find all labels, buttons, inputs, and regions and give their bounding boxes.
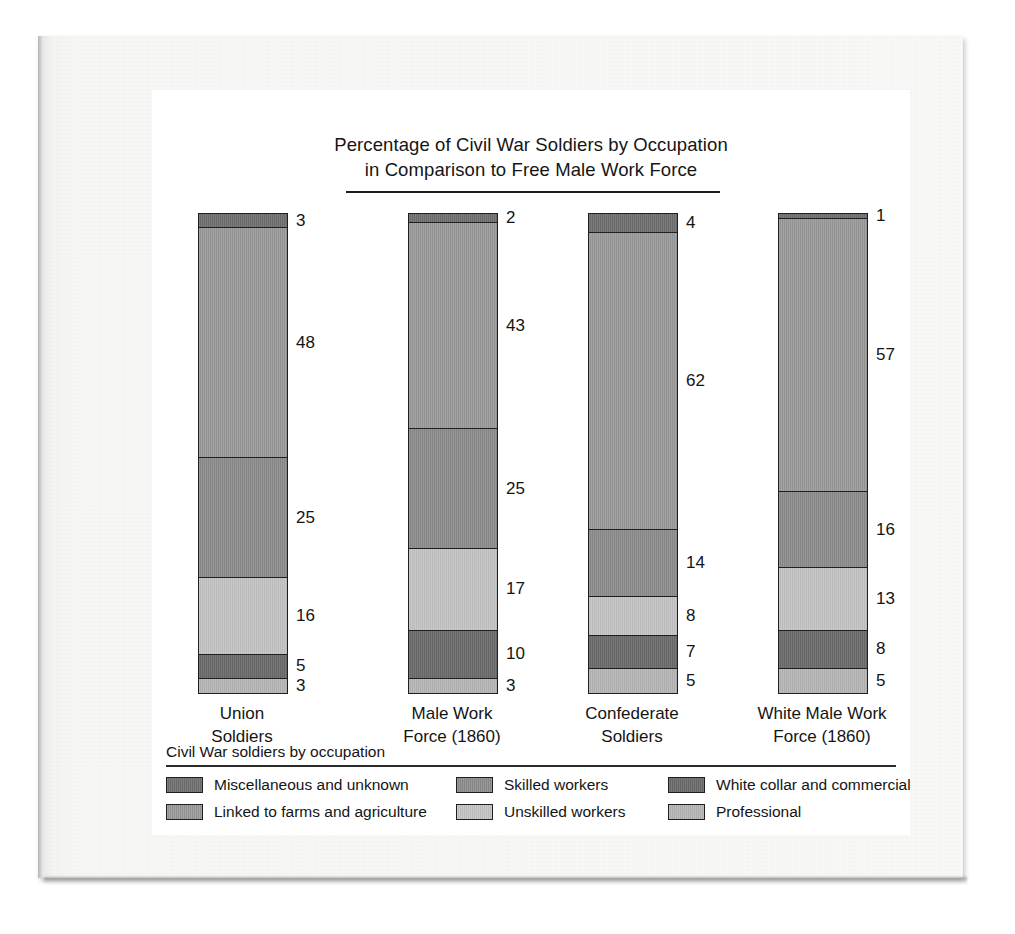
bar-segment[interactable]: 3 bbox=[199, 214, 287, 228]
segment-value-label: 1 bbox=[876, 206, 885, 226]
category-label: UnionSoldiers bbox=[211, 702, 272, 748]
bar-segment[interactable]: 3 bbox=[409, 679, 497, 693]
bar-segment[interactable]: 17 bbox=[409, 549, 497, 630]
category-label: Male WorkForce (1860) bbox=[403, 702, 500, 748]
scanned-page: Percentage of Civil War Soldiers by Occu… bbox=[38, 36, 963, 878]
legend-swatch bbox=[668, 777, 705, 793]
bar-segment[interactable]: 10 bbox=[409, 631, 497, 679]
bar-segment[interactable]: 14 bbox=[589, 530, 677, 597]
legend-swatch bbox=[668, 804, 705, 820]
bar-segment[interactable]: 5 bbox=[199, 655, 287, 679]
segment-texture bbox=[409, 679, 497, 693]
bar-group: 2432517103Male WorkForce (1860) bbox=[408, 213, 496, 694]
legend-label: Professional bbox=[716, 803, 801, 821]
bar-segment[interactable]: 4 bbox=[589, 214, 677, 233]
category-label-line-1: Union bbox=[211, 702, 272, 725]
segment-value-label: 17 bbox=[506, 579, 525, 599]
legend-item[interactable]: Miscellaneous and unknown bbox=[166, 776, 456, 794]
legend-swatch bbox=[456, 804, 493, 820]
segment-value-label: 16 bbox=[296, 606, 315, 626]
segment-texture bbox=[409, 214, 497, 223]
chart-title-line-2: in Comparison to Free Male Work Force bbox=[152, 157, 910, 182]
legend-divider bbox=[166, 765, 896, 767]
legend-item[interactable]: Skilled workers bbox=[456, 776, 668, 794]
legend-swatch-texture bbox=[457, 778, 492, 792]
segment-texture bbox=[779, 214, 867, 218]
bar-segment[interactable]: 13 bbox=[779, 568, 867, 630]
segment-texture bbox=[589, 233, 677, 529]
segment-value-label: 62 bbox=[686, 371, 705, 391]
legend-item[interactable]: White collar and commercial bbox=[668, 776, 911, 794]
stacked-bar[interactable]: 2432517103 bbox=[408, 213, 498, 694]
segment-texture bbox=[779, 669, 867, 693]
category-label-line-1: Confederate bbox=[585, 702, 679, 725]
bar-segment[interactable]: 8 bbox=[589, 597, 677, 635]
legend-item[interactable]: Linked to farms and agriculture bbox=[166, 803, 456, 821]
bar-segment[interactable]: 48 bbox=[199, 228, 287, 458]
bar-segment[interactable]: 25 bbox=[409, 429, 497, 549]
bar-segment[interactable]: 57 bbox=[779, 219, 867, 492]
legend-swatch bbox=[166, 777, 203, 793]
legend-item[interactable]: Unskilled workers bbox=[456, 803, 668, 821]
chart-title-line-1: Percentage of Civil War Soldiers by Occu… bbox=[152, 132, 910, 157]
segment-value-label: 8 bbox=[876, 639, 885, 659]
chart-title: Percentage of Civil War Soldiers by Occu… bbox=[152, 132, 910, 182]
bar-segment[interactable]: 8 bbox=[779, 631, 867, 669]
segment-value-label: 5 bbox=[296, 656, 305, 676]
legend-item[interactable]: Professional bbox=[668, 803, 911, 821]
segment-value-label: 25 bbox=[506, 479, 525, 499]
segment-value-label: 5 bbox=[876, 671, 885, 691]
stacked-bar[interactable]: 46214875 bbox=[588, 213, 678, 694]
bar-segment[interactable]: 5 bbox=[589, 669, 677, 693]
segment-texture bbox=[589, 597, 677, 634]
segment-value-label: 8 bbox=[686, 606, 695, 626]
category-label-line-1: Male Work bbox=[403, 702, 500, 725]
segment-value-label: 10 bbox=[506, 644, 525, 664]
legend-label: Linked to farms and agriculture bbox=[214, 803, 427, 821]
bar-segment[interactable]: 2 bbox=[409, 214, 497, 224]
segment-texture bbox=[409, 429, 497, 548]
segment-value-label: 14 bbox=[686, 553, 705, 573]
category-label: White Male WorkForce (1860) bbox=[757, 702, 886, 748]
page-bottom-shadow bbox=[44, 877, 967, 884]
bar-segment[interactable]: 16 bbox=[199, 578, 287, 655]
segment-texture bbox=[409, 549, 497, 629]
legend-label: Miscellaneous and unknown bbox=[214, 776, 409, 794]
bar-segment[interactable]: 16 bbox=[779, 492, 867, 569]
bar-segment[interactable]: 5 bbox=[779, 669, 867, 693]
segment-value-label: 57 bbox=[876, 345, 895, 365]
legend-swatch-texture bbox=[457, 805, 492, 819]
segment-value-label: 2 bbox=[506, 208, 515, 228]
segment-texture bbox=[589, 214, 677, 232]
category-label: ConfederateSoldiers bbox=[585, 702, 679, 748]
stacked-bar[interactable]: 157161385 bbox=[778, 213, 868, 694]
bar-segment[interactable]: 3 bbox=[199, 679, 287, 693]
segment-value-label: 4 bbox=[686, 213, 695, 233]
stacked-bar[interactable]: 348251653 bbox=[198, 213, 288, 694]
chart-legend: Civil War soldiers by occupation Miscell… bbox=[166, 743, 896, 821]
segment-texture bbox=[409, 223, 497, 428]
bar-segment[interactable]: 7 bbox=[589, 636, 677, 670]
segment-value-label: 43 bbox=[506, 316, 525, 336]
segment-value-label: 13 bbox=[876, 589, 895, 609]
segment-texture bbox=[199, 458, 287, 577]
segment-texture bbox=[589, 669, 677, 693]
legend-entries: Miscellaneous and unknownSkilled workers… bbox=[166, 776, 896, 821]
legend-swatch-texture bbox=[167, 778, 202, 792]
bar-segment[interactable]: 25 bbox=[199, 458, 287, 578]
segment-texture bbox=[779, 219, 867, 491]
segment-value-label: 3 bbox=[296, 211, 305, 231]
segment-value-label: 25 bbox=[296, 508, 315, 528]
category-label-line-1: White Male Work bbox=[757, 702, 886, 725]
legend-label: Unskilled workers bbox=[504, 803, 625, 821]
bar-group: 157161385White Male WorkForce (1860) bbox=[778, 213, 866, 694]
bar-segment[interactable]: 43 bbox=[409, 223, 497, 429]
legend-swatch-texture bbox=[669, 805, 704, 819]
segment-value-label: 48 bbox=[296, 333, 315, 353]
segment-texture bbox=[589, 530, 677, 596]
segment-texture bbox=[199, 578, 287, 654]
segment-value-label: 5 bbox=[686, 671, 695, 691]
segment-texture bbox=[199, 228, 287, 457]
bar-segment[interactable]: 62 bbox=[589, 233, 677, 530]
segment-texture bbox=[779, 631, 867, 668]
